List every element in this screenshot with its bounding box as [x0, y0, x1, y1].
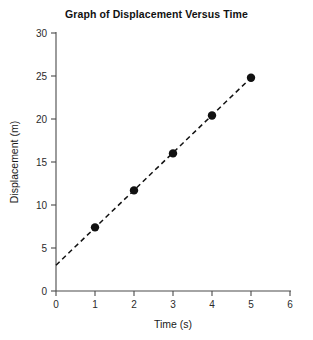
x-axis-title: Time (s): [154, 318, 192, 330]
x-tick-label: 5: [248, 299, 254, 310]
y-tick-label: 25: [36, 71, 48, 82]
data-point: [130, 186, 138, 194]
x-axis-tick-labels: 0 1 2 3 4 5 6: [53, 299, 293, 310]
y-axis-title: Displacement (m): [8, 121, 20, 203]
x-axis-ticks: [56, 291, 290, 296]
y-tick-label: 10: [36, 200, 48, 211]
y-tick-label: 20: [36, 114, 48, 125]
x-tick-label: 0: [53, 299, 59, 310]
y-tick-label: 15: [36, 157, 48, 168]
y-tick-label: 0: [41, 286, 47, 297]
y-tick-label: 30: [36, 28, 48, 39]
plot-area: 0 5 10 15 20 25 30 0 1 2 3 4 5 6: [0, 0, 313, 340]
x-tick-label: 4: [209, 299, 215, 310]
x-tick-label: 2: [131, 299, 137, 310]
data-point: [247, 74, 255, 82]
data-point: [208, 111, 216, 119]
x-tick-label: 1: [92, 299, 98, 310]
data-point: [169, 149, 177, 157]
y-axis-ticks: [51, 33, 56, 291]
chart-figure: Graph of Displacement Versus Time 0 5 10…: [0, 0, 313, 340]
x-tick-label: 6: [287, 299, 293, 310]
x-tick-label: 3: [170, 299, 176, 310]
data-point: [91, 223, 99, 231]
y-axis-tick-labels: 0 5 10 15 20 25 30: [36, 28, 48, 297]
trendline-dashed: [56, 78, 251, 265]
y-tick-label: 5: [41, 243, 47, 254]
